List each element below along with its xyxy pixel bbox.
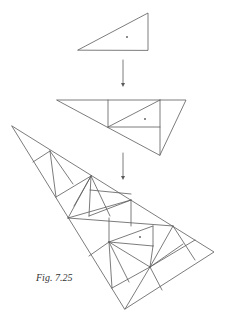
subdivision-line <box>109 242 112 288</box>
small-triangle <box>78 13 148 50</box>
subdivision-line <box>109 242 153 246</box>
subdivision-line <box>56 176 91 197</box>
subdivision-line <box>90 190 131 194</box>
tiling-diagram <box>0 0 227 322</box>
marker-dot <box>144 118 146 120</box>
subdivision-line <box>91 176 110 216</box>
subdivision-line <box>68 218 173 226</box>
subdivision-line <box>150 240 195 267</box>
subdivision-line <box>173 226 195 260</box>
subdivision-line <box>89 242 109 256</box>
subdivision-line <box>112 267 150 288</box>
subdivision-line <box>33 151 50 162</box>
medium-triangle <box>57 100 186 155</box>
subdivision-line <box>74 176 91 206</box>
subdivision-line <box>68 200 131 218</box>
subdivision-line <box>109 226 153 242</box>
down-arrow-icon <box>121 153 125 180</box>
marker-dot <box>139 236 141 238</box>
triangle-outline <box>78 13 148 50</box>
subdivision-line <box>150 226 173 267</box>
subdivision-line <box>89 176 91 216</box>
subdivision-line <box>150 244 183 267</box>
subdivision-line <box>125 267 150 309</box>
subdivision-line <box>89 200 131 216</box>
figure-caption: Fig. 7.25 <box>36 272 72 283</box>
diagram-stages <box>12 13 214 309</box>
subdivision-line <box>108 100 160 127</box>
marker-dot <box>126 36 128 38</box>
subdivision-line <box>150 267 162 290</box>
triangle-outline <box>57 100 186 155</box>
down-arrow-icon <box>121 60 125 87</box>
